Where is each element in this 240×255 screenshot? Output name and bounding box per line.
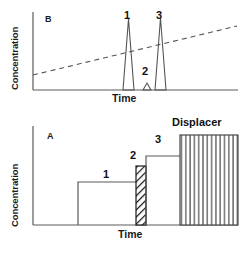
panel-b-peak-label-3: 3 <box>156 10 162 21</box>
panel-a-displacer-label: Displacer <box>172 117 222 128</box>
figure-root: Concentration B 1 2 3 Time Concentration… <box>0 0 240 255</box>
panel-a-displacement-chromatogram: Concentration A 1 2 3 Displacer <box>0 112 240 255</box>
panel-a-tag: A <box>47 132 54 141</box>
panel-a-displacer-block <box>180 135 238 225</box>
panel-b-peak-label-1: 1 <box>124 10 130 21</box>
panel-b-tag: B <box>45 15 52 24</box>
panel-a-step-label-1: 1 <box>103 169 109 180</box>
panel-a-step-label-2: 2 <box>130 150 136 161</box>
panel-b-y-axis-label: Concentration <box>10 14 20 90</box>
panel-b-x-axis-label: Time <box>112 93 136 104</box>
panel-b-elution-chromatogram: Concentration B 1 2 3 Time <box>0 0 240 112</box>
panel-a-y-axis-label: Concentration <box>10 147 20 227</box>
panel-b-peak-label-2: 2 <box>142 66 148 77</box>
panel-a-step-3 <box>146 156 180 225</box>
panel-a-step-1 <box>78 182 136 225</box>
panel-a-step-label-3: 3 <box>155 134 161 145</box>
panel-b-peak-3 <box>155 18 166 90</box>
panel-a-x-axis-label: Time <box>118 229 142 240</box>
panel-b-peak-1 <box>123 19 134 90</box>
panel-a-step-2-hatched-bar <box>136 166 146 225</box>
panel-b-peak-2 <box>143 83 151 90</box>
panel-b-gradient-line <box>33 26 237 75</box>
